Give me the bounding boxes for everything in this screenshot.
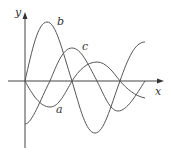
y-axis-label: y bbox=[15, 7, 21, 18]
curve-c-label: c bbox=[82, 41, 88, 52]
graph-canvas bbox=[0, 0, 171, 153]
curve-a-label: a bbox=[56, 104, 63, 115]
x-axis-arrow-icon bbox=[157, 79, 164, 84]
curve-c bbox=[25, 48, 145, 124]
curve-a bbox=[25, 62, 145, 107]
curve-b-label: b bbox=[57, 16, 64, 27]
x-axis-label: x bbox=[155, 86, 161, 97]
curve-b bbox=[25, 22, 145, 133]
y-axis-arrow-icon bbox=[23, 12, 28, 19]
function-graph: y x b c a bbox=[0, 0, 171, 153]
